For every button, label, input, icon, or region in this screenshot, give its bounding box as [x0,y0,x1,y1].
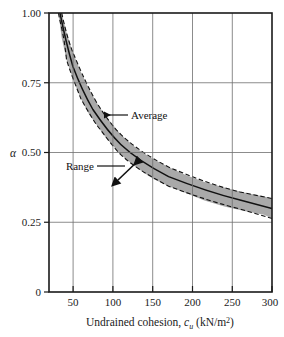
y-tick-label-0: 0 [36,286,42,298]
x-axis-title-units-close: ) [230,316,234,329]
x-axis-title-lead: Undrained cohesion, [86,316,184,329]
y-tick-label-1.00: 1.00 [22,7,42,19]
average-annotation-label: Average [131,109,168,121]
x-tick-label-300: 300 [262,296,279,308]
y-axis-title: α [10,147,17,159]
x-axis-title-units: (kN/m [193,316,226,329]
y-tick-label-0.25: 0.25 [22,216,42,228]
x-tick-label-200: 200 [184,296,201,308]
figure-container: 1.00 0.75 0.50 0.25 0 50 100 150 200 250… [0,0,284,337]
x-tick-label-250: 250 [224,296,241,308]
x-tick-label-100: 100 [105,296,122,308]
x-tick-label-150: 150 [144,296,161,308]
alpha-vs-undrained-cohesion-chart: 1.00 0.75 0.50 0.25 0 50 100 150 200 250… [0,0,284,337]
y-tick-label-0.50: 0.50 [22,146,42,158]
y-tick-label-0.75: 0.75 [22,77,42,89]
x-tick-label-50: 50 [68,296,80,308]
range-annotation-label: Range [66,160,94,172]
